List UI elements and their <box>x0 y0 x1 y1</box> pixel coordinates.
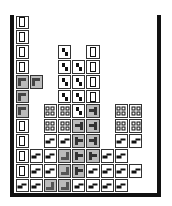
empty-cell <box>143 59 157 74</box>
empty-cell <box>43 45 57 60</box>
i-block-icon <box>90 92 96 102</box>
s-block-icon <box>76 78 82 86</box>
i-block-icon <box>19 32 25 42</box>
z-block-cell <box>30 179 43 193</box>
l-block-cell <box>16 90 29 104</box>
empty-cell <box>43 15 57 30</box>
o-block-cell <box>115 104 128 118</box>
t-block-cell <box>86 149 99 163</box>
empty-cell <box>129 30 143 45</box>
i-block-icon <box>19 166 25 176</box>
z-block-cell <box>101 149 114 163</box>
i-block-cell <box>16 119 29 133</box>
i-block-cell <box>86 90 99 104</box>
empty-cell <box>58 30 72 45</box>
s-block-cell <box>72 90 85 104</box>
z-block-cell <box>115 164 128 178</box>
l-block-alt-cell <box>58 149 71 163</box>
o-block-icon <box>117 107 126 116</box>
s-block-cell <box>58 45 71 59</box>
i-block-cell <box>16 134 29 148</box>
empty-cell <box>114 74 128 89</box>
z-block-icon <box>89 168 98 173</box>
j-block-icon <box>89 107 97 115</box>
l-block-alt-icon <box>61 182 69 190</box>
empty-cell <box>129 148 143 163</box>
right-wall <box>157 15 161 197</box>
l-block-alt-cell <box>58 164 71 178</box>
empty-cell <box>29 15 43 30</box>
z-block-cell <box>44 164 57 178</box>
o-block-icon <box>131 107 140 116</box>
z-block-icon <box>117 183 126 188</box>
i-block-cell <box>86 75 99 89</box>
empty-cell <box>143 74 157 89</box>
empty-cell <box>129 89 143 104</box>
s-block-icon <box>76 107 82 115</box>
o-block-icon <box>46 122 55 131</box>
j-block-cell <box>72 119 85 133</box>
z-block-cell <box>115 179 128 193</box>
i-block-cell <box>16 30 29 44</box>
s-block-icon <box>62 63 68 71</box>
s-block-cell <box>72 104 85 118</box>
empty-cell <box>29 45 43 60</box>
i-block-cell <box>86 45 99 59</box>
empty-cell <box>143 104 157 119</box>
z-block-icon <box>103 168 112 173</box>
o-block-cell <box>58 119 71 133</box>
o-block-icon <box>60 107 69 116</box>
s-block-cell <box>72 60 85 74</box>
z-block-icon <box>32 153 41 158</box>
empty-cell <box>29 104 43 119</box>
z-block-cell <box>30 164 43 178</box>
empty-cell <box>143 30 157 45</box>
empty-cell <box>114 15 128 30</box>
o-block-icon <box>117 122 126 131</box>
empty-cell <box>143 15 157 30</box>
z-block-cell <box>129 164 142 178</box>
i-block-cell <box>16 60 29 74</box>
empty-cell <box>100 30 114 45</box>
z-block-icon <box>46 153 55 158</box>
z-block-cell <box>72 179 85 193</box>
z-block-cell <box>16 179 29 193</box>
z-block-cell <box>44 149 57 163</box>
s-block-cell <box>72 75 85 89</box>
empty-cell <box>72 30 86 45</box>
l-block-cell <box>30 75 43 89</box>
empty-cell <box>43 30 57 45</box>
i-block-icon <box>19 17 25 27</box>
empty-cell <box>58 15 72 30</box>
empty-cell <box>86 30 100 45</box>
empty-cell <box>100 104 114 119</box>
z-block-icon <box>46 168 55 173</box>
j-block-cell <box>86 104 99 118</box>
s-block-cell <box>58 90 71 104</box>
empty-cell <box>143 134 157 149</box>
z-block-icon <box>32 168 41 173</box>
empty-cell <box>114 59 128 74</box>
t-block-cell <box>72 164 85 178</box>
j-block-icon <box>89 122 97 130</box>
empty-cell <box>129 59 143 74</box>
j-block-cell <box>86 119 99 133</box>
j-block-cell <box>86 134 99 148</box>
z-block-icon <box>103 153 112 158</box>
i-block-icon <box>19 151 25 161</box>
o-block-cell <box>58 104 71 118</box>
t-block-icon <box>75 137 83 145</box>
empty-cell <box>143 89 157 104</box>
l-block-icon <box>18 107 26 115</box>
empty-cell <box>129 178 143 193</box>
i-block-cell <box>16 45 29 59</box>
empty-cell <box>86 15 100 30</box>
z-block-cell <box>86 179 99 193</box>
s-block-cell <box>58 75 71 89</box>
l-block-cell <box>16 75 29 89</box>
empty-cell <box>114 30 128 45</box>
o-block-cell <box>129 104 142 118</box>
empty-cell <box>29 119 43 134</box>
j-block-icon <box>75 122 83 130</box>
s-block-icon <box>76 93 82 101</box>
